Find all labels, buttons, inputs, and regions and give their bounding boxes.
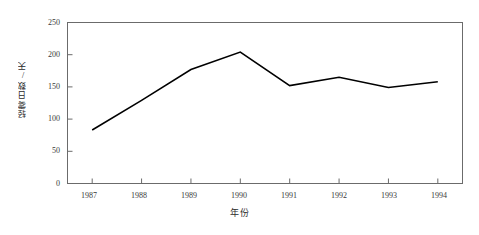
chart-figure: 轻雾日数/天 年份 250 200 150 100 50 0 1987 1988… bbox=[0, 0, 479, 235]
x-axis-ticks bbox=[92, 179, 438, 184]
plot-area bbox=[0, 0, 479, 235]
y-axis-ticks bbox=[68, 23, 73, 184]
plot-frame bbox=[68, 23, 463, 184]
data-line-series-0 bbox=[92, 52, 438, 130]
